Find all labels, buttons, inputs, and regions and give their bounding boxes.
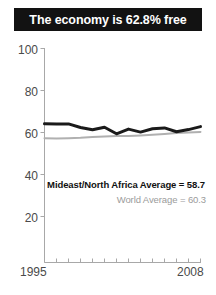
economic-freedom-chart: The economy is 62.8% free 100 80 60 40 2… xyxy=(0,0,216,295)
y-axis-ticks xyxy=(41,49,45,217)
x-axis-ticks xyxy=(45,259,201,263)
region-average-line xyxy=(45,124,201,134)
axis-lines xyxy=(45,48,202,263)
plot-area xyxy=(0,0,216,295)
